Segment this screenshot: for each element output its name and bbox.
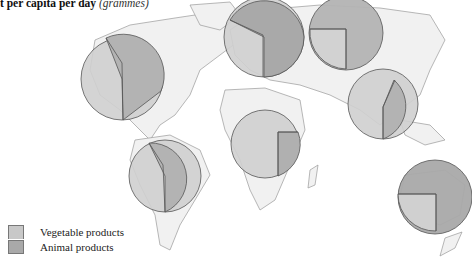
pie-ussr — [309, 0, 383, 70]
legend-item-vegetable: Vegetable products — [8, 224, 124, 239]
legend-swatch-animal — [8, 240, 24, 254]
legend-label-vegetable: Vegetable products — [40, 226, 124, 238]
chart-title-unit: (grammes) — [99, 0, 149, 9]
chart-title: t per capita per day (grammes) — [0, 0, 149, 9]
legend-swatch-vegetable — [8, 225, 24, 239]
pie-south-america — [129, 140, 201, 212]
world-map — [0, 0, 472, 262]
landmass-madagascar — [308, 165, 318, 188]
legend-label-animal: Animal products — [40, 241, 114, 253]
pie-south-asia — [348, 69, 418, 139]
legend: Vegetable products Animal products — [8, 224, 124, 254]
chart-title-main: t per capita per day — [0, 0, 96, 9]
pie-western-europe — [224, 0, 304, 77]
pie-oceania — [398, 160, 472, 234]
landmass-new-zealand — [440, 232, 462, 256]
legend-item-animal: Animal products — [8, 239, 124, 254]
